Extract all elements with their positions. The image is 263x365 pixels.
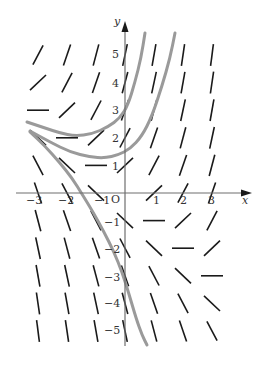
x-axis: x (16, 190, 252, 208)
solution-curve-upper (27, 33, 145, 135)
slope-segment (204, 241, 220, 256)
slope-segment (36, 237, 41, 259)
slope-segment (151, 320, 157, 341)
slope-segment (37, 320, 40, 342)
slope-segment (210, 99, 214, 121)
slope-segment (91, 101, 101, 120)
solution-curve-lower (30, 132, 147, 345)
y-axis-arrow-icon (122, 21, 129, 32)
slope-segment (210, 127, 215, 149)
y-tick-label: −4 (104, 297, 120, 310)
y-tick-label: 4 (112, 77, 119, 90)
slope-segment (65, 320, 68, 342)
slope-segment (59, 103, 75, 118)
slope-segment (93, 44, 99, 65)
slope-segment (152, 72, 157, 94)
slope-segment (94, 320, 98, 342)
slope-segment (178, 294, 188, 313)
slope-segment (211, 44, 214, 66)
slope-segment (150, 293, 157, 314)
slope-segment (207, 321, 217, 340)
slope-segment (65, 265, 70, 287)
slope-segment (35, 210, 41, 231)
slope-segment (180, 127, 186, 148)
slope-segment (146, 241, 162, 256)
y-tick-label: −1 (104, 216, 120, 229)
slope-segment (179, 155, 186, 176)
slope-segment (175, 213, 191, 228)
slope-segment (179, 321, 186, 342)
slope-segment (149, 156, 159, 175)
slope-segment (30, 75, 46, 90)
slope-segment (36, 265, 40, 287)
x-tick-label: −2 (58, 194, 74, 207)
slope-segment (152, 44, 156, 66)
slope-segment (93, 265, 99, 286)
slope-segment (92, 72, 99, 93)
y-axis-label: y (113, 15, 121, 28)
origin-label: O (111, 193, 120, 206)
x-tick-label: −3 (26, 194, 42, 207)
slope-segment (63, 210, 70, 231)
slope-segment (175, 268, 191, 283)
slope-segment (149, 266, 159, 285)
x-tick-label: 3 (208, 194, 215, 207)
slope-segment (210, 72, 213, 94)
slope-segment (181, 99, 186, 121)
y-tick-label: 2 (112, 132, 119, 145)
slope-segment (92, 238, 99, 259)
x-tick-labels: −3 −2 −1 1 2 3 (26, 194, 215, 207)
slope-segment (33, 45, 43, 64)
y-tick-label: −3 (104, 271, 120, 284)
slope-segment (207, 211, 217, 230)
y-tick-label: 5 (112, 48, 119, 61)
slope-segment (94, 293, 99, 315)
slope-segment (63, 45, 70, 66)
slope-field-diagram: x y O −3 −2 −1 1 2 3 5 4 3 2 1 −1 −2 −3 … (0, 0, 263, 365)
y-tick-label: 1 (112, 160, 119, 173)
slope-segment (209, 155, 215, 176)
slope-segment (36, 293, 39, 315)
slope-segment (62, 73, 72, 92)
slope-segment (33, 156, 43, 175)
y-tick-label: −2 (104, 243, 120, 256)
y-tick-label: 3 (112, 104, 119, 117)
y-tick-label: −5 (104, 324, 120, 337)
slope-segment (181, 72, 185, 94)
x-tick-label: 2 (180, 194, 187, 207)
x-axis-label: x (242, 194, 249, 207)
x-tick-label: 1 (153, 194, 160, 207)
slope-segment (181, 44, 184, 66)
slope-segment (150, 127, 157, 148)
x-tick-label: −1 (94, 194, 110, 207)
slope-segment (64, 238, 70, 259)
slope-segment (204, 296, 220, 311)
slope-segment (65, 293, 69, 315)
